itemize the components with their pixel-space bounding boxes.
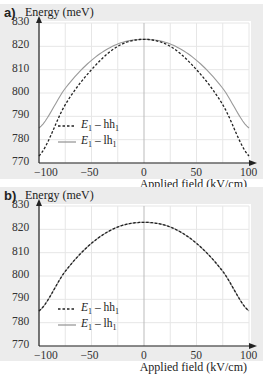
panel-b: b)Energy (meV)830820810800790780770−100−… xyxy=(0,183,271,367)
solid-line-swatch-icon xyxy=(58,322,76,328)
y-tick-label: 820 xyxy=(12,38,29,50)
y-tick-label: 810 xyxy=(12,62,29,74)
x-tick-label: −100 xyxy=(34,349,58,361)
legend: E1 – hh1E1 – lh1 xyxy=(58,118,119,150)
y-tick-label: 790 xyxy=(12,108,29,120)
legend: E1 – hh1E1 – lh1 xyxy=(58,301,119,333)
x-tick-label: −50 xyxy=(81,166,99,178)
y-tick-label: 830 xyxy=(12,198,29,210)
legend-label: E1 – lh1 xyxy=(81,134,116,149)
y-tick-label: 770 xyxy=(12,155,29,167)
y-tick-label: 800 xyxy=(12,268,29,280)
y-tick-label: 780 xyxy=(12,132,29,144)
y-tick-label: 780 xyxy=(12,315,29,327)
y-tick-label: 770 xyxy=(12,338,29,350)
x-tick-label: −100 xyxy=(34,166,58,178)
chart-canvas xyxy=(0,0,271,185)
legend-item-e1-lh1: E1 – lh1 xyxy=(58,317,119,333)
legend-item-e1-hh1: E1 – hh1 xyxy=(58,118,119,134)
dashed-line-swatch-icon xyxy=(58,306,76,312)
y-tick-label: 830 xyxy=(12,15,29,27)
chart-canvas xyxy=(0,183,271,367)
y-tick-label: 810 xyxy=(12,245,29,257)
legend-item-e1-lh1: E1 – lh1 xyxy=(58,134,119,150)
y-axis-title: Energy (meV) xyxy=(25,5,94,20)
y-tick-label: 820 xyxy=(12,221,29,233)
solid-line-swatch-icon xyxy=(58,139,76,145)
y-axis-title: Energy (meV) xyxy=(25,188,94,203)
y-tick-label: 800 xyxy=(12,85,29,97)
legend-label: E1 – hh1 xyxy=(81,118,119,133)
panel-a: a)Energy (meV)830820810800790780770−100−… xyxy=(0,0,271,185)
dashed-line-swatch-icon xyxy=(58,123,76,129)
x-tick-label: −50 xyxy=(81,349,99,361)
legend-label: E1 – lh1 xyxy=(81,317,116,332)
x-axis-title: Applied field (kV/cm) xyxy=(140,360,247,375)
legend-item-e1-hh1: E1 – hh1 xyxy=(58,301,119,317)
legend-label: E1 – hh1 xyxy=(81,301,119,316)
y-tick-label: 790 xyxy=(12,291,29,303)
